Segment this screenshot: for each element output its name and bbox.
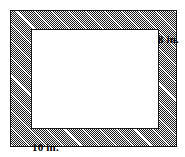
width-dimension-label: 10 in. [32, 141, 59, 153]
height-dimension-label: 8 in. [158, 33, 179, 45]
inner-rectangle-region [31, 29, 159, 129]
figure-canvas: 8 in. 10 in. [0, 0, 185, 157]
